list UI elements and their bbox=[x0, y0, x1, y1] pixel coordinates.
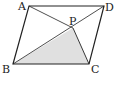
label-b: B bbox=[2, 63, 10, 76]
label-d: D bbox=[105, 1, 114, 14]
label-p: P bbox=[69, 15, 77, 28]
label-a: A bbox=[17, 0, 27, 13]
parallelogram-diagram: A D P B C bbox=[0, 0, 118, 85]
label-c: C bbox=[91, 63, 99, 76]
shaded-triangle-bpc bbox=[13, 28, 89, 64]
segment-ap bbox=[29, 6, 73, 28]
